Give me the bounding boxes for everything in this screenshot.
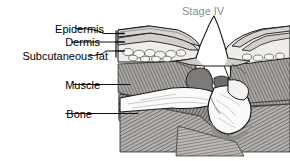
label-subcutaneous-fat: Subcutaneous fat (0, 51, 108, 62)
label-epidermis: Epidermis (0, 24, 104, 35)
label-bone: Bone (0, 109, 92, 120)
stage-title: Stage IV (182, 5, 224, 17)
undermined-skin-edge (225, 26, 290, 64)
label-muscle: Muscle (0, 80, 100, 91)
label-dermis: Dermis (0, 37, 100, 48)
figure-container: Stage IV Epidermis Dermis Subcutaneous f… (0, 0, 290, 161)
